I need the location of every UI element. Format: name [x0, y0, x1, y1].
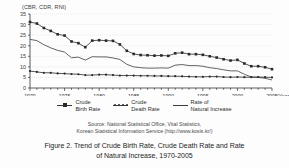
svg-text:5: 5 — [23, 74, 26, 80]
legend-item-rate-of-natural-increase: Rate of Natural Increase — [173, 99, 232, 112]
figure-container: (CBR, CDR, RNI) 05101520253035 197019751… — [0, 0, 289, 168]
svg-text:2000: 2000 — [232, 93, 244, 96]
caption-line-1: Figure 2. Trend of Crude Birth Rate, Cru… — [0, 141, 289, 151]
svg-text:1975: 1975 — [59, 93, 71, 96]
legend-item-crude-birth-rate: Crude Birth Rate — [57, 99, 100, 112]
legend-square-marker-icon — [57, 102, 72, 110]
caption-line-2: of Natural Increase, 1970-2005 — [0, 151, 289, 161]
svg-text:1970: 1970 — [24, 93, 36, 96]
legend-label-rate-of-natural-increase: Rate of Natural Increase — [191, 99, 232, 112]
legend-item-crude-death-rate: Crude Death Rate — [113, 99, 159, 112]
svg-text:20: 20 — [20, 43, 26, 49]
x-tick-labels: 19701975198019851990199520002005(Year) — [24, 93, 289, 96]
chart-legend: Crude Birth Rate Crude Death Rate Rate o… — [0, 99, 289, 112]
figure-caption: Figure 2. Trend of Crude Birth Rate, Cru… — [0, 141, 289, 160]
svg-text:0: 0 — [23, 85, 26, 91]
legend-dot-marker-icon — [113, 102, 128, 110]
legend-plain-line-icon — [173, 102, 188, 110]
source-note: Source: National Statistical Office, Vit… — [0, 121, 289, 135]
legend-label-crude-death-rate: Crude Death Rate — [131, 99, 159, 112]
legend-label-crude-birth-rate: Crude Birth Rate — [75, 99, 100, 112]
svg-text:15: 15 — [20, 53, 26, 59]
svg-text:25: 25 — [20, 32, 26, 38]
chart-svg: 05101520253035 1970197519801985199019952… — [0, 10, 289, 96]
source-line-2: Korean Statistical Information Service (… — [0, 128, 289, 135]
svg-text:1980: 1980 — [93, 93, 105, 96]
svg-text:(Year): (Year) — [277, 93, 289, 96]
series-lines — [29, 21, 274, 80]
svg-text:1985: 1985 — [128, 93, 140, 96]
source-line-1: Source: National Statistical Office, Vit… — [0, 121, 289, 128]
svg-text:1990: 1990 — [163, 93, 175, 96]
svg-text:35: 35 — [20, 11, 26, 17]
plot-area: 05101520253035 1970197519801985199019952… — [0, 10, 289, 96]
svg-text:1995: 1995 — [197, 93, 209, 96]
svg-text:10: 10 — [20, 64, 26, 70]
y-tick-labels: 05101520253035 — [20, 11, 26, 91]
svg-text:30: 30 — [20, 22, 26, 28]
